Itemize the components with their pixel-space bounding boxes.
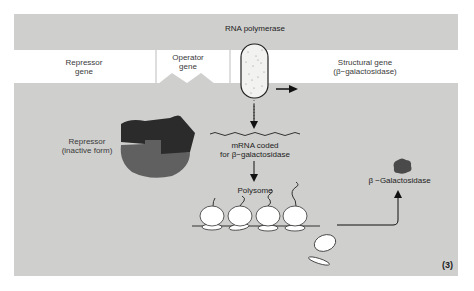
mrna-strand-icon (210, 133, 300, 136)
structural-gene-label-line1: Structural gene (320, 58, 410, 67)
operator-gene-label: Operator gene (163, 53, 213, 71)
repressor-inactive-label: Repressor (inactive form) (54, 137, 120, 155)
repressor-inactive-icon (121, 116, 195, 178)
ribosome-3 (256, 189, 280, 231)
polysome-to-product-arrow-icon (337, 190, 402, 225)
repressor-gene-label: Repressor gene (54, 58, 114, 76)
transcription-arrow-icon (276, 85, 298, 93)
mrna-label-line1: mRNA coded (210, 141, 300, 150)
operator-gene-label-line1: Operator (163, 53, 213, 62)
structural-gene-label: Structural gene (β−galactosidase) (320, 58, 410, 76)
mrna-label-line2: for β−galactosidase (210, 150, 300, 159)
beta-galactosidase-icon (394, 159, 412, 174)
repressor-gene-label-line1: Repressor (54, 58, 114, 67)
ribosome-4 (283, 182, 307, 231)
released-large-subunit (312, 232, 338, 255)
panel-number: (3) (442, 260, 453, 270)
ribosome-2 (228, 196, 252, 231)
operator-notch (158, 73, 215, 84)
rna-polymerase-icon (241, 44, 268, 98)
mrna-label: mRNA coded for β−galactosidase (210, 141, 300, 159)
polymerase-to-mrna-arrow-icon (250, 100, 258, 129)
operator-gene-label-line2: gene (163, 62, 213, 71)
polysome-label: Polysome (230, 186, 280, 195)
structural-gene-label-line2: (β−galactosidase) (320, 67, 410, 76)
released-small-subunit (308, 255, 330, 267)
mrna-to-polysome-arrow-icon (250, 161, 258, 182)
repressor-gene-label-line2: gene (54, 67, 114, 76)
repressor-label-line2: (inactive form) (54, 146, 120, 155)
rna-polymerase-label: RNA polymerase (220, 24, 290, 33)
ribosome-1 (200, 198, 224, 230)
beta-galactosidase-label: β −Galactosidase (362, 176, 437, 185)
repressor-label-line1: Repressor (54, 137, 120, 146)
